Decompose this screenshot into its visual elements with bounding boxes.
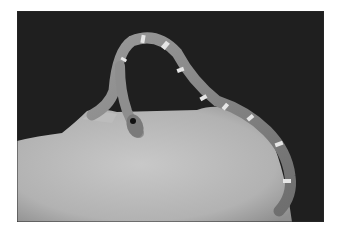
photograph [17,11,324,222]
snake-on-hand-image [17,11,324,222]
snake-eye [130,118,136,124]
